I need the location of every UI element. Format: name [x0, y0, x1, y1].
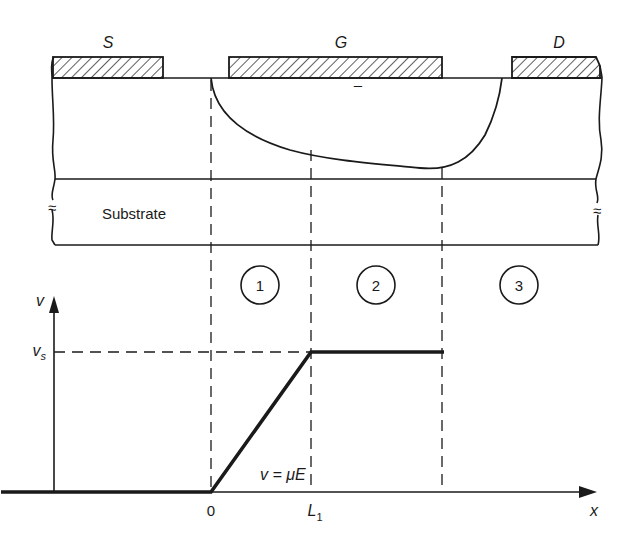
region-3-marker: 3 — [500, 266, 538, 304]
x-tick-L1: L1 — [307, 502, 322, 523]
region-2-marker: 2 — [357, 266, 395, 304]
drain-label: D — [553, 34, 565, 51]
gate-mark: – — [354, 76, 363, 93]
source-electrode — [53, 57, 163, 78]
region-3-label: 3 — [515, 277, 523, 294]
velocity-series-line — [1, 352, 444, 492]
diagram-canvas: S G D ≈ ≈ – Substrate 1 — [0, 0, 629, 544]
region-1-marker: 1 — [241, 266, 279, 304]
x-tick-0: 0 — [207, 502, 215, 519]
x-tick-L1-sub: 1 — [316, 511, 322, 523]
y-axis-arrow-icon — [49, 296, 59, 313]
y-tick-vs: vs — [33, 342, 47, 362]
velocity-chart: v x vs 0 L1 v = μE — [1, 292, 599, 523]
mobility-annotation: v = μE — [260, 466, 306, 483]
left-break-symbol: ≈ — [48, 199, 56, 216]
series-layer — [1, 352, 444, 492]
device-cross-section: S G D ≈ ≈ – Substrate — [48, 34, 602, 245]
drain-electrode — [512, 57, 600, 78]
region-1-label: 1 — [256, 277, 264, 294]
y-axis-label: v — [36, 292, 45, 309]
left-break-edge — [52, 57, 56, 245]
mesfet-velocity-diagram: S G D ≈ ≈ – Substrate 1 — [0, 0, 629, 544]
region-2-label: 2 — [372, 277, 380, 294]
x-axis-arrow-icon — [579, 486, 597, 498]
x-axis-label: x — [589, 502, 599, 519]
y-tick-vs-sub: s — [41, 350, 47, 362]
right-break-symbol: ≈ — [593, 202, 601, 219]
gate-label: G — [335, 34, 347, 51]
region-markers: 1 2 3 — [241, 266, 538, 304]
source-label: S — [103, 34, 114, 51]
substrate-label: Substrate — [102, 205, 166, 222]
x-tick-L1-main: L — [307, 502, 316, 519]
region-dividers — [211, 80, 442, 492]
gate-electrode — [229, 57, 442, 78]
